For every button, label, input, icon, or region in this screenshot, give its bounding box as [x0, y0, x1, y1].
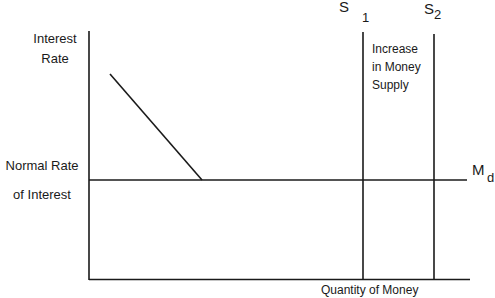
annotation-line-3: Supply [372, 76, 421, 94]
supply-1-subscript: 1 [362, 10, 369, 26]
money-demand-letter: M [472, 161, 485, 178]
supply-1-letter: S [339, 0, 349, 15]
money-demand-subscript: d [487, 170, 494, 186]
supply-1-label: S [339, 0, 349, 15]
y-axis-label-line-1: Interest [20, 31, 90, 47]
normal-rate-label-line-1: Normal Rate [0, 158, 84, 174]
normal-rate-label-line-2: of Interest [0, 187, 84, 203]
increase-money-supply-annotation: Increase in Money Supply [372, 40, 421, 94]
money-demand-sloped-segment [110, 74, 202, 180]
y-axis-label: Interest Rate [20, 31, 90, 67]
supply-2-letter: S [424, 0, 434, 17]
normal-rate-label: Normal Rate of Interest [0, 158, 84, 203]
x-axis-label: Quantity of Money [321, 282, 418, 298]
money-demand-label: M [472, 162, 485, 178]
supply-2-label: S2 [424, 1, 441, 18]
annotation-line-1: Increase [372, 40, 421, 58]
y-axis-label-line-2: Rate [20, 51, 90, 67]
supply-2-subscript: 2 [434, 7, 441, 22]
annotation-line-2: in Money [372, 58, 421, 76]
